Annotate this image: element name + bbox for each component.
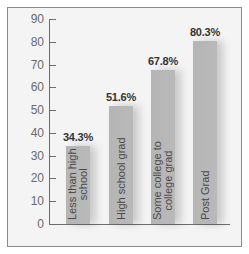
y-tick (50, 156, 56, 157)
y-tick (50, 201, 56, 202)
bar-category-label: High school grad (116, 137, 127, 220)
bar: Some college tocollege grad (151, 70, 175, 224)
bar: High school grad (109, 106, 133, 224)
bar-value-label: 51.6% (96, 91, 146, 103)
y-tick (50, 224, 56, 225)
y-axis (49, 19, 50, 225)
y-tick-label: 10 (20, 195, 44, 207)
bar-category-line: college grad (163, 141, 174, 220)
bar: Less than highschool (66, 146, 90, 224)
bar-category-line: school (78, 148, 89, 220)
y-tick-label: 0 (20, 218, 44, 230)
bar-category-label: Post Grad (200, 170, 211, 220)
y-tick-label: 60 (20, 81, 44, 93)
y-tick-label: 50 (20, 104, 44, 116)
y-tick (50, 19, 56, 20)
y-tick-label: 40 (20, 127, 44, 139)
y-tick-label: 20 (20, 172, 44, 184)
bar-category-line: Post Grad (200, 170, 211, 220)
bar-value-label: 80.3% (180, 26, 230, 38)
bar: Post Grad (193, 41, 217, 224)
x-axis (49, 224, 230, 225)
y-tick-label: 30 (20, 150, 44, 162)
bar-value-label: 67.8% (138, 55, 188, 67)
bar-category-label: Some college tocollege grad (152, 141, 174, 220)
y-tick-label: 70 (20, 59, 44, 71)
y-tick-label: 80 (20, 36, 44, 48)
y-tick (50, 110, 56, 111)
bar-category-line: High school grad (116, 137, 127, 220)
y-tick (50, 87, 56, 88)
y-tick-label: 90 (20, 13, 44, 25)
y-tick (50, 42, 56, 43)
y-tick (50, 65, 56, 66)
y-tick (50, 178, 56, 179)
bar-value-label: 34.3% (53, 131, 103, 143)
bar-category-label: Less than highschool (67, 148, 89, 220)
